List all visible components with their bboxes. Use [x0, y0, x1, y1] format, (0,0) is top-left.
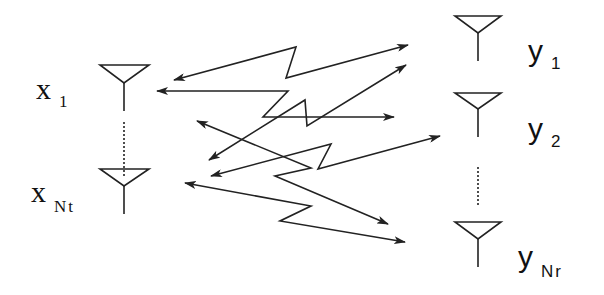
tx-antenna-1 — [100, 65, 149, 111]
tx-label-1-main: x — [36, 72, 51, 105]
tx-label-nt-main: x — [31, 175, 46, 208]
rx-label-2-main: y — [528, 112, 543, 145]
rx-label-nr-sub: Nr — [541, 262, 563, 281]
rx-antenna-2 — [455, 93, 501, 137]
tx-label-nt-sub: Nt — [54, 197, 75, 216]
link-6 — [185, 183, 405, 242]
link-3 — [209, 65, 406, 160]
rx-label-nr: yNr — [518, 240, 563, 274]
rx-label-1-main: y — [528, 34, 543, 67]
tx-label-1: x1 — [36, 72, 68, 106]
rx-label-2-sub: 2 — [551, 132, 560, 151]
rx-antenna-1 — [455, 16, 501, 61]
tx-label-nt: xNt — [31, 175, 75, 209]
rx-label-nr-main: y — [518, 240, 533, 273]
rx-label-1: y1 — [528, 34, 560, 68]
rx-antenna-nr — [455, 222, 501, 267]
rx-label-2: y2 — [528, 112, 560, 146]
mimo-diagram — [0, 0, 604, 295]
tx-label-1-sub: 1 — [59, 92, 68, 111]
link-5 — [211, 136, 440, 176]
rx-label-1-sub: 1 — [551, 54, 560, 73]
link-1 — [174, 45, 408, 80]
